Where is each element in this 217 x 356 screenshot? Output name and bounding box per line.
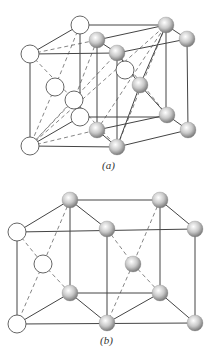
gray-atom — [187, 315, 203, 331]
open-atom — [21, 45, 39, 63]
gray-atom — [62, 285, 78, 301]
caption-figure-b: (b) — [100, 334, 113, 346]
crystal-structure-diagram — [0, 0, 217, 356]
caption-figure-a: (a) — [102, 159, 115, 171]
gray-atom — [89, 122, 105, 138]
cell-edge — [30, 53, 117, 54]
figure-a-unit-cell — [21, 16, 196, 155]
dashed-bond — [30, 40, 97, 54]
open-atom — [65, 91, 83, 109]
gray-atom — [99, 315, 115, 331]
gray-atom — [180, 122, 196, 138]
gray-atom — [62, 192, 78, 208]
gray-atom — [89, 32, 105, 48]
dashed-bond — [43, 200, 70, 264]
gray-atom — [99, 221, 115, 237]
open-atom — [8, 223, 26, 241]
cell-edge — [117, 39, 187, 53]
dashed-bond — [74, 40, 97, 100]
dashed-bond — [30, 87, 55, 146]
dashed-bond — [30, 130, 97, 146]
gray-atom — [158, 17, 174, 33]
dashed-bond — [17, 264, 43, 324]
gray-atom — [179, 31, 195, 47]
figure-b-unit-cell — [8, 192, 203, 333]
open-atom — [116, 61, 134, 79]
open-atom — [34, 255, 52, 273]
open-atom — [21, 137, 39, 155]
gray-atom — [159, 107, 175, 123]
gray-atom — [187, 221, 203, 237]
gray-atom — [125, 256, 141, 272]
cell-edge — [107, 293, 160, 323]
cell-edge — [140, 25, 166, 85]
dashed-bond — [97, 25, 166, 130]
gray-atom — [109, 45, 125, 61]
cell-edge — [117, 130, 188, 147]
dashed-bond — [133, 200, 160, 264]
gray-atom — [152, 192, 168, 208]
dashed-bond — [55, 25, 80, 87]
cell-edge — [30, 146, 117, 147]
cell-edge — [187, 39, 188, 130]
open-atom — [71, 108, 89, 126]
gray-atom — [132, 77, 148, 93]
gray-atom — [152, 285, 168, 301]
cell-edge — [97, 25, 166, 40]
open-atom — [8, 315, 26, 333]
gray-atom — [109, 139, 125, 155]
open-atom — [71, 16, 89, 34]
open-atom — [46, 78, 64, 96]
